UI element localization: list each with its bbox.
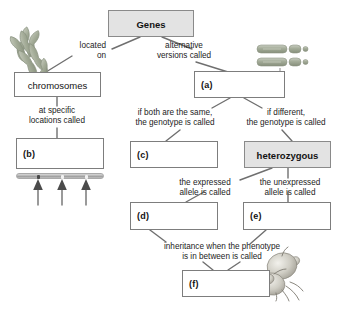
edge-label-alternative-versions: alternative versions called	[134, 41, 234, 61]
arrow-head-3	[81, 179, 91, 190]
node-c-blank[interactable]: (c)	[130, 141, 218, 168]
edge-label-inheritance-between: inheritance when the phenotype is in bet…	[140, 242, 304, 262]
node-e-blank[interactable]: (e)	[243, 202, 331, 230]
arrow-head-1	[33, 179, 43, 190]
arrow-head-2	[57, 179, 67, 190]
wire-inheritance-to-f-left	[203, 262, 213, 270]
edge-label-located-on: located on	[40, 41, 106, 61]
node-heterozygous-label: heterozygous	[245, 149, 330, 160]
node-genes[interactable]: Genes	[108, 10, 194, 37]
locus-mark-1	[37, 175, 40, 179]
gene-locus-bar	[16, 173, 104, 179]
locus-mark-3	[85, 175, 88, 179]
homologous-chromosomes-icon	[255, 42, 311, 68]
node-e-label: (e)	[250, 211, 262, 221]
wire-ifboth-to-c	[166, 130, 180, 141]
arrow-heads	[33, 179, 91, 190]
edge-label-if-both-same: if both are the same, the genotype is ca…	[124, 108, 226, 128]
wire-a-to-ifdifferent	[244, 98, 262, 108]
edge-label-expressed-allele: the expressed allele is called	[166, 178, 244, 198]
wire-a-to-ifboth	[212, 98, 230, 108]
node-chromosomes[interactable]: chromosomes	[14, 72, 101, 97]
wire-d-to-inheritance	[150, 230, 166, 242]
node-f-label: (f)	[189, 279, 199, 289]
node-a-label: (a)	[201, 80, 213, 90]
node-a-blank[interactable]: (a)	[194, 71, 285, 98]
wire-inheritance-to-f-right	[228, 262, 240, 270]
concept-map-canvas: Genes chromosomes (a) (b) (c) heterozygo…	[0, 0, 342, 312]
edge-label-at-specific-locations: at specific locations called	[9, 106, 105, 126]
node-chromosomes-label: chromosomes	[15, 79, 100, 90]
node-c-label: (c)	[137, 150, 149, 160]
wire-ifdifferent-to-heterozygous	[282, 130, 292, 141]
node-heterozygous[interactable]: heterozygous	[244, 141, 331, 168]
edge-label-unexpressed-allele: the unexpressed allele is called	[248, 178, 332, 198]
locus-mark-2	[61, 175, 64, 179]
edge-label-if-different: if different, the genotype is called	[234, 108, 338, 128]
node-f-blank[interactable]: (f)	[182, 270, 270, 297]
node-b-label: (b)	[23, 149, 35, 159]
node-b-blank[interactable]: (b)	[16, 138, 104, 169]
node-d-blank[interactable]: (d)	[130, 202, 218, 230]
node-d-label: (d)	[137, 211, 149, 221]
node-genes-label: Genes	[109, 18, 193, 29]
